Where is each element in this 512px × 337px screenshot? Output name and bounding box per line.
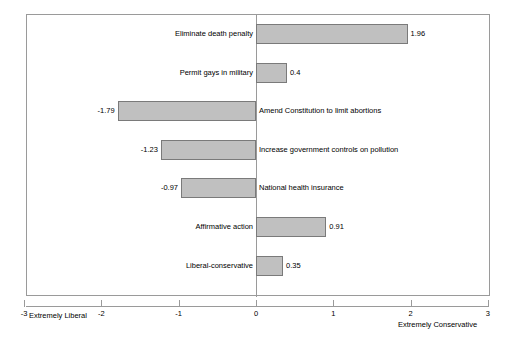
bar-value-label: 0.35 <box>286 261 301 271</box>
x-axis-tick-label: 1 <box>318 309 348 319</box>
bar <box>118 101 256 121</box>
x-axis-tick <box>488 300 489 307</box>
bar-category-label: Amend Constitution to limit abortions <box>259 106 491 116</box>
bar-category-label: Affirmative action <box>24 222 253 232</box>
bar-category-label: Increase government controls on pollutio… <box>259 145 491 155</box>
bars-layer: 1.96Eliminate death penalty0.4Permit gay… <box>0 0 512 337</box>
bar-value-label: 1.96 <box>411 29 426 39</box>
x-axis-tick-label: -2 <box>86 309 116 319</box>
bar-value-label: 0.91 <box>329 222 344 232</box>
bar-category-label: Eliminate death penalty <box>24 29 253 39</box>
x-axis-tick <box>24 300 25 307</box>
bar-category-label: Permit gays in military <box>24 68 253 78</box>
bar-value-label: -1.23 <box>98 145 158 155</box>
x-axis-tick-label: 0 <box>241 309 271 319</box>
bar-category-label: National health insurance <box>259 183 491 193</box>
x-axis-tick-label: -1 <box>164 309 194 319</box>
x-axis-tick <box>411 300 412 307</box>
x-axis-tick <box>179 300 180 307</box>
bar-value-label: -0.97 <box>118 183 178 193</box>
x-axis-tick <box>101 300 102 307</box>
bar-value-label: -1.79 <box>55 106 115 116</box>
x-axis-tick-label: 2 <box>396 309 426 319</box>
bar-category-label: Liberal-conservative <box>24 261 253 271</box>
bar <box>256 217 326 237</box>
bar-chart: 1.96Eliminate death penalty0.4Permit gay… <box>0 0 512 337</box>
axis-end-label-right: Extremely Conservative <box>398 320 477 330</box>
x-axis-tick <box>333 300 334 307</box>
bar <box>256 256 283 276</box>
bar <box>256 63 287 83</box>
axis-end-label-left: Extremely Liberal <box>29 311 87 321</box>
bar <box>161 140 256 160</box>
bar <box>181 178 256 198</box>
bar <box>256 24 408 44</box>
x-axis-line <box>26 306 489 307</box>
x-axis-tick <box>256 300 257 307</box>
x-axis-tick-label: 3 <box>473 309 503 319</box>
bar-value-label: 0.4 <box>290 68 300 78</box>
